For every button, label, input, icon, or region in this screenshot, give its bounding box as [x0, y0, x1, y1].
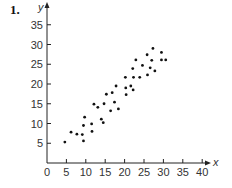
y-axis-label: y	[37, 1, 45, 13]
x-axis-arrow-icon	[205, 161, 211, 166]
y-tick-label: 15	[31, 98, 43, 110]
y-tick-label: 35	[31, 19, 43, 31]
data-point	[146, 53, 149, 56]
data-point	[102, 121, 105, 124]
data-point	[109, 109, 112, 112]
scatter-plot: xy05101520253035405101520253035	[0, 0, 232, 188]
data-point	[124, 87, 127, 90]
data-point	[81, 133, 84, 136]
data-point	[117, 107, 120, 110]
data-point	[141, 64, 144, 67]
x-tick-label: 40	[196, 166, 208, 178]
data-point	[160, 51, 163, 54]
data-point	[103, 102, 106, 105]
x-tick-label: 10	[80, 166, 92, 178]
data-point	[113, 101, 116, 104]
data-point	[82, 124, 85, 127]
y-tick-label: 5	[37, 137, 43, 149]
data-point	[125, 93, 128, 96]
data-point	[129, 85, 132, 88]
data-point	[75, 133, 78, 136]
data-point	[124, 76, 127, 79]
y-axis-arrow-icon	[45, 2, 50, 8]
x-tick-label: 0	[44, 166, 50, 178]
x-axis-label: x	[212, 156, 219, 168]
y-tick-label: 25	[31, 58, 43, 70]
data-point	[160, 59, 163, 62]
data-points	[63, 47, 167, 143]
tick-labels: xy05101520253035405101520253035	[31, 1, 219, 178]
y-tick-label: 30	[31, 39, 43, 51]
data-point	[90, 122, 93, 125]
axes	[45, 2, 212, 166]
data-point	[132, 76, 135, 79]
x-tick-label: 35	[177, 166, 189, 178]
data-point	[82, 139, 85, 142]
data-point	[111, 91, 114, 94]
x-tick-label: 25	[138, 166, 150, 178]
x-tick-label: 20	[118, 166, 130, 178]
data-point	[131, 67, 134, 70]
data-point	[164, 59, 167, 62]
x-tick-label: 5	[63, 166, 69, 178]
axis-ticks	[47, 25, 202, 163]
data-point	[150, 59, 153, 62]
data-point	[146, 74, 149, 77]
x-tick-label: 15	[99, 166, 111, 178]
data-point	[100, 118, 103, 121]
data-point	[153, 70, 156, 73]
data-point	[138, 76, 141, 79]
data-point	[91, 130, 94, 133]
data-point	[152, 47, 155, 50]
data-point	[70, 131, 73, 134]
y-tick-label: 20	[31, 78, 43, 90]
data-point	[83, 116, 86, 119]
y-tick-label: 10	[31, 118, 43, 130]
data-point	[132, 89, 135, 92]
x-tick-label: 30	[157, 166, 169, 178]
data-point	[105, 93, 108, 96]
data-point	[149, 66, 152, 69]
data-point	[96, 106, 99, 109]
data-point	[63, 141, 66, 144]
data-point	[134, 59, 137, 62]
data-point	[93, 103, 96, 106]
data-point	[115, 85, 118, 88]
